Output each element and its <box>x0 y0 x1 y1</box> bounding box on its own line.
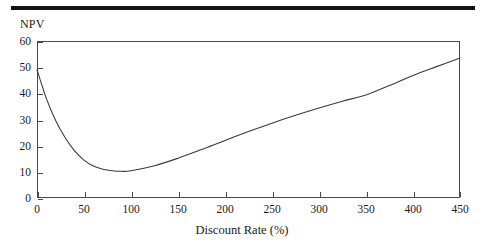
x-axis-tick-label: 450 <box>440 203 480 215</box>
x-axis-tick-label: 50 <box>64 203 104 215</box>
x-axis-tick-label: 0 <box>17 203 57 215</box>
y-axis-tick <box>38 199 43 200</box>
y-axis-tick-label: 10 <box>1 166 31 178</box>
y-axis-tick-label: 30 <box>1 114 31 126</box>
npv-curve <box>37 41 460 198</box>
y-axis-tick-label: 40 <box>1 87 31 99</box>
npv-curve-path <box>37 58 460 171</box>
y-axis-title: NPV <box>20 17 45 32</box>
y-tick-label-group: 0102030405060 <box>0 41 31 198</box>
header-rule <box>11 6 475 10</box>
figure-container: NPV 0102030405060 0501001502002503003504… <box>0 0 484 245</box>
x-axis-tick-label: 350 <box>346 203 386 215</box>
y-axis-tick-label: 20 <box>1 140 31 152</box>
y-axis-tick-label: 60 <box>1 35 31 47</box>
x-axis-tick-label: 300 <box>299 203 339 215</box>
x-axis-tick-label: 400 <box>393 203 433 215</box>
x-tick-label-group: 050100150200250300350400450 <box>37 203 460 219</box>
plot-area <box>37 41 460 198</box>
x-axis-tick-label: 250 <box>252 203 292 215</box>
x-axis-title: Discount Rate (%) <box>0 223 484 238</box>
x-axis-tick-label: 150 <box>158 203 198 215</box>
x-axis-tick-label: 100 <box>111 203 151 215</box>
y-axis-tick-label: 50 <box>1 61 31 73</box>
x-axis-tick <box>460 192 461 197</box>
x-axis-tick-label: 200 <box>205 203 245 215</box>
